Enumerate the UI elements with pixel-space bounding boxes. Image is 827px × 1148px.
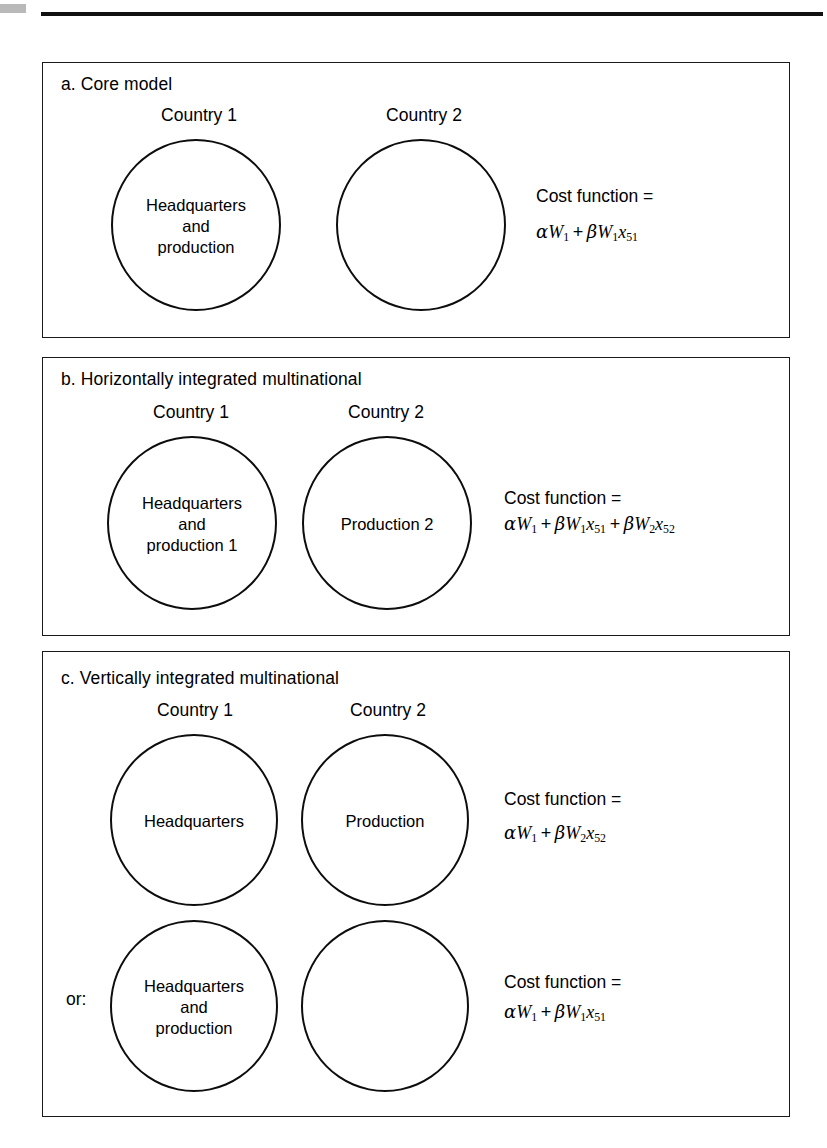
panel-c-row2-cost-formula: αW1 + βW1x51 <box>504 1001 621 1025</box>
panel-horizontally-integrated: b. Horizontally integrated multinational… <box>42 357 790 636</box>
panel-c-country-1-label: Country 1 <box>140 700 250 721</box>
panel-c-row1-ellipse-country-1: Headquarters <box>110 734 278 906</box>
panel-b-cost-formula: αW1 + βW1x51 + βW2x52 <box>504 513 675 537</box>
panel-c-row1-ellipse-country-2: Production <box>301 734 469 906</box>
top-horizontal-rule <box>41 12 823 16</box>
panel-b-ellipse-country-2: Production 2 <box>302 436 472 610</box>
panel-c-row1-ellipse-2-label: Production <box>303 811 467 832</box>
panel-b-ellipse-1-label: Headquarters and production 1 <box>109 493 275 556</box>
panel-c-country-2-label: Country 2 <box>333 700 443 721</box>
panel-b-cost-label: Cost function = <box>504 488 675 509</box>
panel-c-row1-cost-function: Cost function = αW1 + βW2x52 <box>504 789 621 846</box>
panel-a-title: a. Core model <box>61 74 172 95</box>
panel-a-cost-function: Cost function = αW1 + βW1x51 <box>536 186 653 245</box>
panel-c-row1-cost-formula: αW1 + βW2x52 <box>504 822 621 846</box>
panel-core-model: a. Core model Country 1 Country 2 Headqu… <box>42 62 790 338</box>
panel-b-cost-function: Cost function = αW1 + βW1x51 + βW2x52 <box>504 488 675 537</box>
panel-c-row2-cost-function: Cost function = αW1 + βW1x51 <box>504 972 621 1025</box>
panel-c-title: c. Vertically integrated multinational <box>61 668 339 689</box>
panel-vertically-integrated: c. Vertically integrated multinational C… <box>42 651 790 1117</box>
panel-c-row1-ellipse-1-label: Headquarters <box>112 811 276 832</box>
panel-c-row2-cost-label: Cost function = <box>504 972 621 993</box>
panel-a-country-2-label: Country 2 <box>369 105 479 126</box>
page-edge-mark <box>0 4 26 13</box>
panel-a-cost-label: Cost function = <box>536 186 653 207</box>
panel-c-or-label: or: <box>66 989 86 1010</box>
panel-c-row2-ellipse-country-1: Headquarters and production <box>110 920 278 1092</box>
panel-c-row2-ellipse-country-2 <box>301 920 469 1092</box>
panel-c-row1-cost-label: Cost function = <box>504 789 621 810</box>
panel-a-ellipse-1-label: Headquarters and production <box>113 195 279 258</box>
panel-b-title: b. Horizontally integrated multinational <box>61 369 362 390</box>
panel-b-country-1-label: Country 1 <box>136 402 246 423</box>
panel-b-ellipse-2-label: Production 2 <box>304 514 470 535</box>
panel-a-ellipse-country-2 <box>336 139 506 311</box>
panel-b-ellipse-country-1: Headquarters and production 1 <box>107 436 277 610</box>
panel-c-row2-ellipse-1-label: Headquarters and production <box>112 976 276 1039</box>
panel-a-cost-formula: αW1 + βW1x51 <box>536 221 653 245</box>
panel-b-country-2-label: Country 2 <box>331 402 441 423</box>
panel-a-country-1-label: Country 1 <box>144 105 254 126</box>
panel-a-ellipse-country-1: Headquarters and production <box>111 139 281 311</box>
